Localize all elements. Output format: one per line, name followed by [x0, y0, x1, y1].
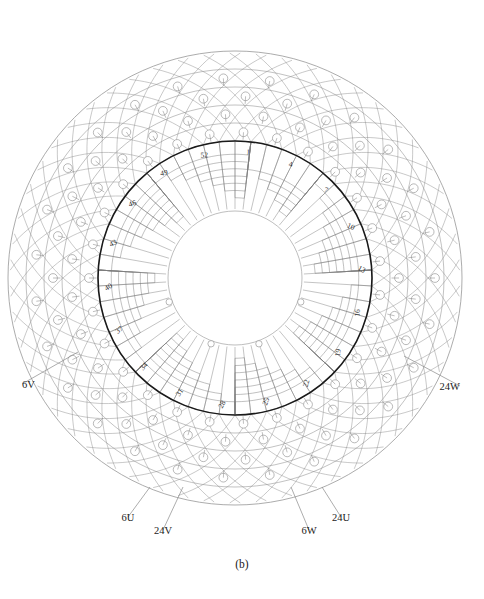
figure-caption: (b): [0, 558, 484, 570]
figure-canvas: 147101316192225283134374043464952 6V24W6…: [0, 0, 484, 599]
winding-diagram-svg: 147101316192225283134374043464952 6V24W6…: [0, 0, 484, 599]
slot-number-label: 31: [174, 386, 186, 398]
terminal-label: 6U: [122, 512, 135, 523]
slot-number-label: 49: [159, 168, 168, 178]
slot-number-label: 43: [108, 237, 119, 248]
slot-number-label: 37: [113, 324, 125, 336]
slot-number-label: 1: [246, 147, 250, 156]
terminal-label: 24V: [154, 525, 173, 536]
terminal-label: 6W: [301, 525, 316, 536]
slot-number-label: 22: [301, 378, 312, 388]
slot-number-label: 52: [200, 150, 208, 160]
inner-coil-region: [98, 141, 372, 415]
slot-number-label: 34: [138, 360, 150, 372]
slot-number-label: 16: [353, 309, 362, 317]
slot-number-label: 19: [333, 348, 343, 357]
slot-number-label: 28: [216, 399, 228, 410]
terminal-label: 24W: [440, 381, 461, 392]
slot-number-label: 40: [103, 281, 114, 293]
terminal-leader-line: [163, 487, 183, 530]
slot-number-label: 10: [346, 221, 357, 232]
slot-number-label: 46: [127, 198, 137, 209]
terminal-label: 24U: [332, 512, 351, 523]
slot-number-label: 4: [288, 159, 293, 169]
slot-number-label: 7: [323, 185, 329, 195]
slot-number-label: 25: [260, 396, 271, 407]
terminal-label: 6V: [22, 379, 35, 390]
